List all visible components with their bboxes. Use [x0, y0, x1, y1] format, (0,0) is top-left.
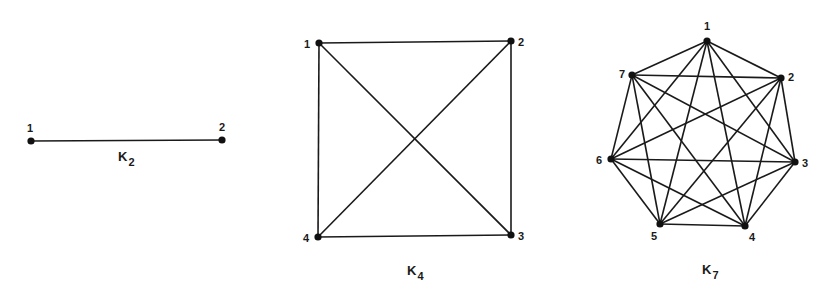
edge-5-7	[632, 75, 660, 224]
vertex-label: 1	[704, 20, 710, 32]
vertex-2	[507, 37, 514, 44]
edge-1-2	[319, 41, 511, 43]
edge-4-7	[632, 75, 745, 226]
vertex-label: 2	[788, 71, 794, 83]
edge-4-5	[660, 224, 745, 226]
vertex-label: 4	[749, 231, 756, 243]
edge-3-4	[318, 235, 511, 237]
vertex-2	[777, 74, 784, 81]
graph-name-label: K7	[702, 262, 719, 281]
graph-k2: 12K2	[27, 121, 226, 168]
vertex-2	[218, 136, 225, 143]
edge-1-4	[707, 41, 745, 226]
vertex-1	[27, 137, 34, 144]
vertex-label: 3	[802, 157, 808, 169]
vertex-7	[628, 71, 635, 78]
graph-name-label: K2	[118, 149, 135, 168]
vertex-3	[791, 158, 798, 165]
graph-k4: 1234K4	[303, 36, 524, 282]
vertex-1	[315, 39, 322, 46]
vertex-4	[314, 233, 321, 240]
vertex-4	[741, 222, 748, 229]
edge-1-2	[31, 140, 222, 141]
vertex-6	[607, 155, 614, 162]
graph-name-label: K4	[407, 263, 424, 282]
edge-1-7	[632, 41, 707, 75]
vertex-1	[703, 37, 710, 44]
complete-graphs-figure: 12K2 1234K4 1234567K7	[0, 0, 833, 299]
vertex-label: 6	[596, 154, 602, 166]
edge-1-2	[707, 41, 781, 78]
vertex-label: 7	[619, 68, 625, 80]
vertex-label: 2	[518, 36, 524, 48]
edge-5-6	[611, 159, 660, 224]
vertex-5	[656, 220, 663, 227]
edge-2-3	[781, 78, 795, 162]
vertex-label: 2	[219, 121, 225, 133]
vertex-label: 4	[303, 232, 310, 244]
vertex-3	[507, 231, 514, 238]
edge-2-6	[611, 78, 781, 159]
vertex-label: 1	[27, 122, 33, 134]
edge-1-4	[318, 43, 319, 237]
vertex-label: 3	[518, 230, 524, 242]
edge-2-7	[632, 75, 781, 78]
graph-k7: 1234567K7	[596, 20, 808, 281]
vertex-label: 5	[651, 230, 657, 242]
vertex-label: 1	[304, 38, 310, 50]
edge-3-6	[611, 159, 795, 162]
